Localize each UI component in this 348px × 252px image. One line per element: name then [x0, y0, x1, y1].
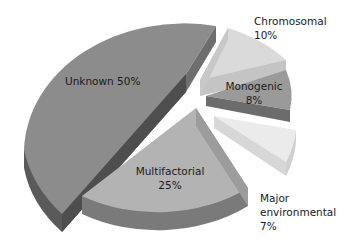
label-unknown: Unknown 50%	[65, 75, 140, 88]
label-chromosomal-pct: 10%	[254, 29, 277, 42]
label-monogenic-pct: 8%	[224, 94, 284, 107]
label-chromosomal-name: Chromosomal	[254, 15, 327, 28]
label-environmental-name2: environmental	[260, 206, 336, 219]
label-environmental-pct: 7%	[260, 220, 277, 233]
label-multifactorial-name: Multifactorial	[130, 165, 210, 178]
label-multifactorial-pct: 25%	[130, 179, 210, 192]
label-environmental-name1: Major	[260, 192, 289, 205]
label-monogenic-name: Monogenic	[224, 80, 284, 93]
